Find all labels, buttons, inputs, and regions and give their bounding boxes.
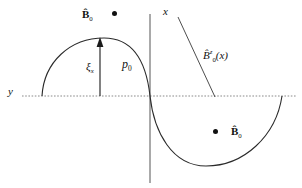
displacement-curve (42, 38, 282, 166)
y-axis-label: y (8, 86, 13, 97)
b0-top-label: B̂0 (82, 9, 93, 23)
xi-displacement-label: ξx (86, 61, 94, 75)
b0-bottom-label: B̂0 (231, 126, 242, 140)
figure-canvas (0, 0, 302, 188)
bz-function-label: B̂z0(x) (203, 49, 228, 64)
field-dot-top-icon (112, 11, 117, 16)
field-dot-bottom-icon (213, 129, 218, 134)
p0-pressure-label: p0 (122, 58, 132, 73)
x-axis-label: x (163, 6, 168, 17)
physics-figure: B̂0 x y ξx p0 B̂z0(x) B̂0 (0, 0, 302, 188)
